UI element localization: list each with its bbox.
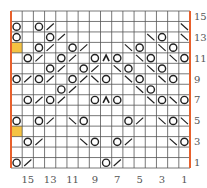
k2tog-icon bbox=[58, 65, 65, 71]
k2tog-icon bbox=[24, 76, 31, 82]
column-labels: 15131197531 bbox=[21, 174, 187, 185]
k2tog-icon bbox=[47, 118, 54, 124]
yarn-over-icon bbox=[80, 117, 87, 124]
yarn-over-icon bbox=[181, 55, 188, 62]
row-label: 3 bbox=[194, 136, 200, 147]
yarn-over-icon bbox=[24, 138, 31, 145]
yarn-over-icon bbox=[102, 159, 109, 166]
ssk-icon bbox=[181, 34, 188, 40]
yarn-over-icon bbox=[147, 86, 154, 93]
yarn-over-icon bbox=[158, 65, 165, 72]
ssk-icon bbox=[69, 118, 76, 124]
yarn-over-icon bbox=[170, 44, 177, 51]
k2tog-icon bbox=[47, 44, 54, 50]
ssk-icon bbox=[91, 76, 98, 82]
yarn-over-icon bbox=[35, 23, 42, 30]
double-decrease-icon bbox=[103, 55, 109, 61]
ssk-icon bbox=[136, 86, 143, 92]
k2tog-icon bbox=[35, 55, 42, 61]
column-label: 15 bbox=[21, 174, 34, 185]
yarn-over-icon bbox=[91, 55, 98, 62]
ssk-icon bbox=[170, 97, 177, 103]
column-label: 7 bbox=[114, 174, 120, 185]
yarn-over-icon bbox=[13, 159, 20, 166]
ssk-icon bbox=[125, 76, 132, 82]
yarn-over-icon bbox=[69, 44, 76, 51]
yarn-over-icon bbox=[35, 44, 42, 51]
yarn-over-icon bbox=[13, 23, 20, 30]
ssk-icon bbox=[158, 118, 165, 124]
k2tog-icon bbox=[80, 44, 87, 50]
yarn-over-icon bbox=[125, 65, 132, 72]
column-label: 13 bbox=[44, 174, 57, 185]
k2tog-icon bbox=[47, 23, 54, 29]
yarn-over-icon bbox=[158, 96, 165, 103]
row-label: 5 bbox=[194, 115, 200, 126]
yarn-over-icon bbox=[91, 138, 98, 145]
yarn-over-icon bbox=[47, 34, 54, 41]
yarn-over-icon bbox=[58, 55, 65, 62]
yarn-over-icon bbox=[47, 96, 54, 103]
yarn-over-icon bbox=[13, 34, 20, 41]
yarn-over-icon bbox=[114, 55, 121, 62]
k2tog-icon bbox=[47, 76, 54, 82]
column-label: 9 bbox=[92, 174, 98, 185]
k2tog-icon bbox=[58, 34, 65, 40]
k2tog-icon bbox=[91, 65, 98, 71]
yarn-over-icon bbox=[47, 65, 54, 72]
yarn-over-icon bbox=[24, 96, 31, 103]
yarn-over-icon bbox=[24, 55, 31, 62]
yarn-over-icon bbox=[58, 86, 65, 93]
k2tog-icon bbox=[80, 76, 87, 82]
ssk-icon bbox=[147, 65, 154, 71]
row-label: 11 bbox=[194, 53, 207, 64]
k2tog-icon bbox=[58, 97, 65, 103]
yarn-over-icon bbox=[91, 96, 98, 103]
yarn-over-icon bbox=[35, 117, 42, 124]
row-label: 1 bbox=[194, 157, 200, 168]
ssk-icon bbox=[170, 55, 177, 61]
yarn-over-icon bbox=[136, 75, 143, 82]
knitting-chart: 15131197531 15131197531 bbox=[0, 0, 207, 188]
row-label: 13 bbox=[194, 32, 207, 43]
k2tog-icon bbox=[35, 97, 42, 103]
ssk-icon bbox=[136, 55, 143, 61]
k2tog-icon bbox=[35, 139, 42, 145]
yarn-over-icon bbox=[147, 55, 154, 62]
ssk-icon bbox=[158, 76, 165, 82]
yarn-over-icon bbox=[13, 75, 20, 82]
chart-grid bbox=[11, 11, 190, 168]
highlight-cell bbox=[11, 126, 22, 136]
ssk-icon bbox=[147, 97, 154, 103]
row-label: 7 bbox=[194, 94, 200, 105]
yarn-over-icon bbox=[102, 75, 109, 82]
yarn-over-icon bbox=[181, 138, 188, 145]
ssk-icon bbox=[181, 23, 188, 29]
yarn-over-icon bbox=[114, 138, 121, 145]
yarn-over-icon bbox=[181, 96, 188, 103]
yarn-over-icon bbox=[69, 75, 76, 82]
highlight-cell bbox=[11, 42, 22, 52]
k2tog-icon bbox=[136, 118, 143, 124]
yarn-over-icon bbox=[114, 96, 121, 103]
row-labels: 15131197531 bbox=[194, 11, 207, 169]
ssk-icon bbox=[125, 44, 132, 50]
ssk-icon bbox=[114, 65, 121, 71]
ssk-icon bbox=[181, 118, 188, 124]
column-label: 5 bbox=[136, 174, 142, 185]
yarn-over-icon bbox=[170, 117, 177, 124]
k2tog-icon bbox=[69, 55, 76, 61]
column-label: 1 bbox=[181, 174, 187, 185]
yarn-over-icon bbox=[158, 34, 165, 41]
k2tog-icon bbox=[69, 86, 76, 92]
k2tog-icon bbox=[125, 139, 132, 145]
row-label: 9 bbox=[194, 74, 200, 85]
yarn-over-icon bbox=[13, 117, 20, 124]
ssk-icon bbox=[147, 34, 154, 40]
yarn-over-icon bbox=[136, 44, 143, 51]
yarn-over-icon bbox=[35, 75, 42, 82]
k2tog-icon bbox=[24, 160, 31, 166]
row-label: 15 bbox=[194, 11, 207, 22]
ssk-icon bbox=[158, 44, 165, 50]
double-decrease-icon bbox=[103, 97, 109, 103]
